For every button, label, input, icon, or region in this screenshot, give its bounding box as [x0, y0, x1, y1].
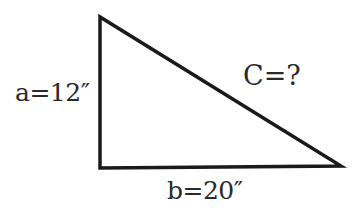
side-b-label: b=20″ — [167, 178, 243, 203]
side-a-label: a=12″ — [15, 80, 90, 105]
hypotenuse-label: C=? — [243, 62, 301, 89]
right-triangle — [100, 17, 341, 168]
